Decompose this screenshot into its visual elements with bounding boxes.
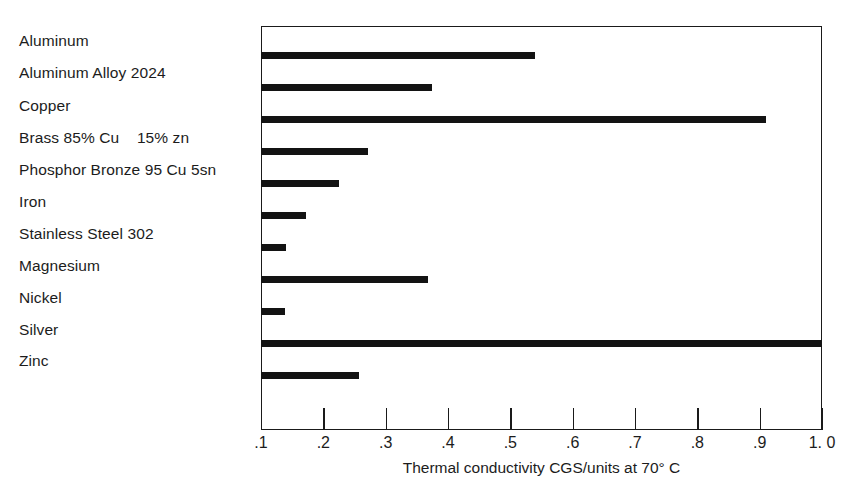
tick-label: .7 (628, 433, 641, 452)
tick-label: .8 (691, 433, 704, 452)
category-label: Nickel (19, 289, 62, 307)
bar-phosphor-bronze (261, 180, 339, 187)
tick-label: .1 (254, 433, 267, 452)
bar-magnesium (261, 276, 428, 283)
tick-mark (822, 408, 823, 430)
tick-label: .3 (379, 433, 392, 452)
bar-iron (261, 212, 306, 219)
thermal-conductivity-bar-chart: Aluminum Aluminum Alloy 2024 Copper Bras… (0, 0, 843, 489)
category-label: Phosphor Bronze 95 Cu 5sn (19, 161, 216, 179)
category-label: Zinc (19, 352, 49, 370)
bar-aluminum (261, 52, 535, 59)
category-label-column: Aluminum Aluminum Alloy 2024 Copper Bras… (0, 0, 250, 440)
category-label: Aluminum (19, 32, 89, 50)
tick-label: .9 (753, 433, 766, 452)
bar-aluminum-alloy-2024 (261, 84, 432, 91)
bar-copper (261, 116, 766, 123)
bar-nickel (261, 308, 285, 315)
tick-label: .6 (566, 433, 579, 452)
category-label: Magnesium (19, 257, 100, 275)
bar-brass (261, 148, 368, 155)
bars-layer (261, 26, 822, 430)
tick-label: .2 (317, 433, 330, 452)
bar-zinc (261, 372, 359, 379)
category-label: Copper (19, 97, 70, 115)
bar-stainless-steel-302 (261, 244, 286, 251)
category-label: Brass 85% Cu 15% zn (19, 129, 189, 147)
tick-label: .4 (441, 433, 454, 452)
tick-label: .5 (504, 433, 517, 452)
category-label: Aluminum Alloy 2024 (19, 64, 166, 82)
category-label: Silver (19, 321, 58, 339)
category-label: Stainless Steel 302 (19, 225, 154, 243)
category-label: Iron (19, 193, 46, 211)
x-axis-title: Thermal conductivity CGS/units at 70° C (261, 458, 822, 477)
tick-label: 1. 0 (809, 433, 836, 452)
bar-silver (261, 340, 822, 347)
